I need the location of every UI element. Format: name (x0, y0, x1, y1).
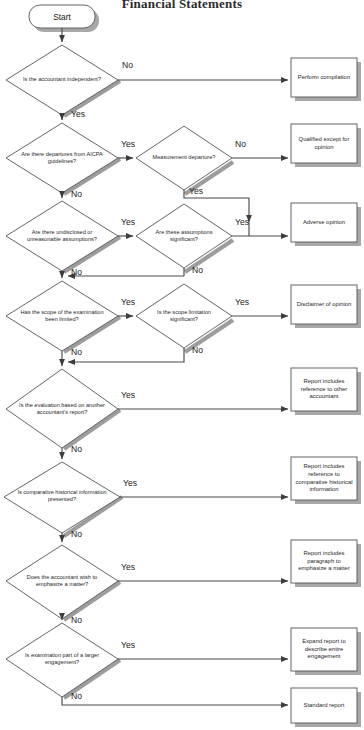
decision-shape-d5 (6, 369, 118, 448)
outcome-shape-o2 (291, 124, 357, 163)
flowchart-graphics (0, 0, 364, 730)
flow-connectors (62, 28, 288, 705)
edge-label-d4b-yes: Yes (235, 297, 249, 307)
edge-label-d4-no: No (71, 347, 82, 357)
outcome-shape-o8 (291, 628, 357, 671)
edge-label-d3-yes: Yes (121, 217, 135, 227)
edge-label-d6-no: No (71, 529, 82, 539)
outcome-shape-o3 (291, 203, 357, 242)
decision-shape-d4b (136, 284, 232, 348)
edge-label-d1-yes: Yes (71, 109, 85, 119)
edge-label-d7-no: No (71, 615, 82, 625)
edge-label-d4-yes: Yes (121, 297, 135, 307)
edge-label-d6-yes: Yes (123, 478, 137, 488)
edge-label-d8-yes: Yes (121, 640, 135, 650)
edge-label-d5-yes: Yes (121, 390, 135, 400)
edge-label-d3-no: No (71, 267, 82, 277)
outcome-shape-o7 (291, 540, 357, 583)
outcome-shape-o9 (291, 688, 357, 723)
edge-label-d5-no: No (71, 444, 82, 454)
flowchart-canvas: Financial Statements Start Is the accoun… (0, 0, 364, 730)
edge-label-d3b-yes: Yes (235, 217, 249, 227)
edge-label-d2b-no: No (235, 139, 246, 149)
decision-shape-d2b (136, 126, 232, 190)
edge-label-d3b-no: No (192, 265, 203, 275)
edge-label-d2-yes: Yes (121, 139, 135, 149)
page-title: Financial Statements (0, 0, 364, 12)
decision-shape-d2 (6, 123, 118, 193)
decision-shape-d1 (6, 45, 118, 115)
edge-d4b-no (68, 348, 184, 362)
outcome-shape-o6 (291, 457, 357, 500)
edge-label-d7-yes: Yes (121, 562, 135, 572)
edge-d8-no (62, 697, 288, 705)
decision-shape-d8 (6, 623, 118, 697)
edge-label-d2-no: No (71, 189, 82, 199)
flow-shapes (4, 5, 357, 723)
edge-label-d8-no: No (71, 691, 82, 701)
decision-shape-d4 (6, 281, 118, 351)
outcome-shape-o4 (291, 285, 357, 324)
edge-label-d2b-yes: Yes (189, 186, 203, 196)
outcome-shape-o1 (291, 58, 357, 97)
decision-shape-d3b (136, 204, 232, 268)
outcome-shape-o5 (291, 368, 357, 411)
decision-shape-d6 (4, 462, 120, 533)
edge-label-d1-no: No (122, 60, 133, 70)
edge-label-d4b-no: No (192, 345, 203, 355)
decision-shape-d3 (6, 201, 118, 271)
decision-shape-d7 (6, 545, 118, 619)
